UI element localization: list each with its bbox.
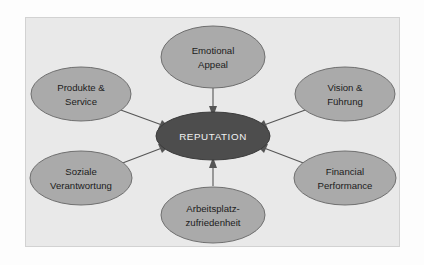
node-reputation-hub-label: REPUTATION (179, 131, 247, 142)
reputation-diagram: Emotional Appeal Produkte & Service Sozi… (0, 0, 424, 265)
node-vision-fuehrung[interactable]: Vision & Führung (295, 67, 395, 121)
node-emotional-appeal-label-line2: Appeal (198, 59, 228, 70)
node-financial-performance[interactable]: Financial Performance (294, 151, 396, 205)
node-financial-performance-label-line1: Financial (326, 166, 364, 177)
node-reputation-hub[interactable]: REPUTATION (156, 112, 270, 160)
node-produkte-service-label-line2: Service (65, 96, 97, 107)
node-financial-performance-label-line2: Performance (318, 180, 373, 191)
arrow-arbeitsplatzzufriedenheit (209, 157, 217, 186)
node-emotional-appeal-label-line1: Emotional (192, 45, 235, 56)
node-emotional-appeal[interactable]: Emotional Appeal (161, 26, 265, 88)
diagram-canvas: Emotional Appeal Produkte & Service Sozi… (0, 0, 424, 265)
node-produkte-service[interactable]: Produkte & Service (31, 67, 131, 121)
node-arbeitsplatzzufriedenheit-label-line1: Arbeitsplatz- (186, 203, 239, 214)
node-vision-fuehrung-label-line2: Führung (327, 96, 363, 107)
node-soziale-verantwortung-label-line1: Soziale (65, 166, 96, 177)
node-arbeitsplatzzufriedenheit[interactable]: Arbeitsplatz- zufriedenheit (161, 187, 265, 243)
node-produkte-service-label-line1: Produkte & (57, 82, 105, 93)
node-arbeitsplatzzufriedenheit-label-line2: zufriedenheit (186, 217, 241, 228)
node-vision-fuehrung-label-line1: Vision & (327, 82, 363, 93)
node-soziale-verantwortung-label-line2: Verantwortung (50, 180, 112, 191)
node-soziale-verantwortung[interactable]: Soziale Verantwortung (30, 151, 132, 205)
